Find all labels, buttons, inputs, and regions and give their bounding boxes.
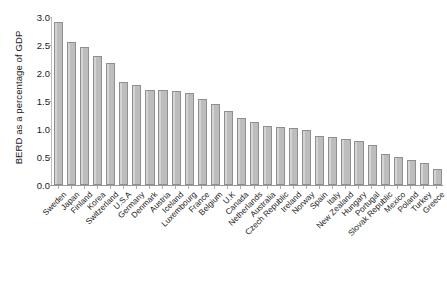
bar[interactable] bbox=[420, 163, 429, 185]
bar-slot bbox=[78, 17, 91, 185]
bar[interactable] bbox=[80, 47, 89, 185]
bar-chart: BERD as a percentage of GDP 0.00.51.01.5… bbox=[0, 0, 447, 284]
bar[interactable] bbox=[211, 104, 220, 185]
x-tick-mark bbox=[58, 186, 59, 189]
bar[interactable] bbox=[407, 160, 416, 185]
y-tick-mark bbox=[48, 101, 51, 102]
x-tick-mark bbox=[319, 186, 320, 189]
bar[interactable] bbox=[381, 154, 390, 185]
y-tick-label: 2.0 bbox=[22, 68, 50, 79]
x-tick-mark bbox=[306, 186, 307, 189]
x-tick-mark bbox=[123, 186, 124, 189]
y-tick-mark bbox=[48, 129, 51, 130]
x-tick-mark bbox=[201, 186, 202, 189]
x-tick-mark bbox=[84, 186, 85, 189]
bar-slot bbox=[405, 17, 418, 185]
bar[interactable] bbox=[237, 118, 246, 185]
x-tick-mark bbox=[332, 186, 333, 189]
bar[interactable] bbox=[368, 145, 377, 185]
bar-slot bbox=[326, 17, 339, 185]
bar[interactable] bbox=[119, 82, 128, 185]
x-tick-mark bbox=[188, 186, 189, 189]
plot-area bbox=[51, 17, 444, 185]
x-axis-tick-labels: SwedenJapanFinlandKoreaSwitzerlandU.S.AG… bbox=[51, 186, 443, 284]
bar-slot bbox=[130, 17, 143, 185]
bar[interactable] bbox=[145, 90, 154, 185]
x-tick-mark bbox=[214, 186, 215, 189]
bar[interactable] bbox=[198, 99, 207, 185]
bar[interactable] bbox=[93, 56, 102, 185]
bar-slot bbox=[366, 17, 379, 185]
y-tick-label: 0.5 bbox=[22, 152, 50, 163]
bar[interactable] bbox=[354, 141, 363, 185]
x-tick-mark bbox=[293, 186, 294, 189]
bar-series bbox=[52, 17, 444, 185]
y-axis-tick-labels: 0.00.51.01.52.02.53.0 bbox=[18, 0, 50, 284]
x-tick-mark bbox=[371, 186, 372, 189]
x-tick-mark bbox=[397, 186, 398, 189]
x-tick-mark bbox=[162, 186, 163, 189]
bar[interactable] bbox=[185, 93, 194, 185]
bar[interactable] bbox=[67, 42, 76, 185]
bar-slot bbox=[52, 17, 65, 185]
bar[interactable] bbox=[289, 128, 298, 185]
bar[interactable] bbox=[250, 122, 259, 185]
y-tick-mark bbox=[48, 17, 51, 18]
bar[interactable] bbox=[158, 90, 167, 185]
x-tick-mark bbox=[136, 186, 137, 189]
x-tick-mark bbox=[227, 186, 228, 189]
y-tick-mark bbox=[48, 157, 51, 158]
x-tick-mark bbox=[280, 186, 281, 189]
x-tick-mark bbox=[254, 186, 255, 189]
bar-slot bbox=[339, 17, 352, 185]
x-tick-mark bbox=[345, 186, 346, 189]
bar-slot bbox=[274, 17, 287, 185]
bar[interactable] bbox=[302, 130, 311, 185]
bar[interactable] bbox=[315, 136, 324, 185]
bar-slot bbox=[143, 17, 156, 185]
bar-slot bbox=[235, 17, 248, 185]
x-tick-mark bbox=[423, 186, 424, 189]
bar-slot bbox=[300, 17, 313, 185]
bar-slot bbox=[196, 17, 209, 185]
bar-slot bbox=[353, 17, 366, 185]
bar-slot bbox=[170, 17, 183, 185]
x-tick-mark bbox=[97, 186, 98, 189]
y-tick-label: 2.5 bbox=[22, 40, 50, 51]
bar-slot bbox=[418, 17, 431, 185]
bar-slot bbox=[287, 17, 300, 185]
y-tick-label: 3.0 bbox=[22, 12, 50, 23]
bar[interactable] bbox=[224, 111, 233, 185]
bar-slot bbox=[183, 17, 196, 185]
bar-slot bbox=[392, 17, 405, 185]
x-tick-mark bbox=[436, 186, 437, 189]
x-tick-mark bbox=[358, 186, 359, 189]
bar-slot bbox=[157, 17, 170, 185]
bar-slot bbox=[91, 17, 104, 185]
x-tick-mark bbox=[149, 186, 150, 189]
bar-slot bbox=[261, 17, 274, 185]
bar[interactable] bbox=[172, 91, 181, 185]
y-tick-mark bbox=[48, 45, 51, 46]
bar-slot bbox=[65, 17, 78, 185]
bar-slot bbox=[248, 17, 261, 185]
bar[interactable] bbox=[263, 126, 272, 185]
bar[interactable] bbox=[394, 157, 403, 185]
bar[interactable] bbox=[54, 22, 63, 185]
x-tick-mark bbox=[384, 186, 385, 189]
bar-slot bbox=[222, 17, 235, 185]
bar-slot bbox=[117, 17, 130, 185]
bar[interactable] bbox=[341, 139, 350, 185]
x-tick-mark bbox=[175, 186, 176, 189]
x-tick-mark bbox=[410, 186, 411, 189]
bar[interactable] bbox=[132, 85, 141, 185]
bar[interactable] bbox=[433, 169, 442, 185]
x-tick-mark bbox=[71, 186, 72, 189]
x-tick-mark bbox=[110, 186, 111, 189]
bar-slot bbox=[209, 17, 222, 185]
y-tick-label: 1.5 bbox=[22, 96, 50, 107]
bar[interactable] bbox=[276, 127, 285, 185]
bar[interactable] bbox=[106, 63, 115, 185]
bar-slot bbox=[313, 17, 326, 185]
bar[interactable] bbox=[328, 137, 337, 185]
